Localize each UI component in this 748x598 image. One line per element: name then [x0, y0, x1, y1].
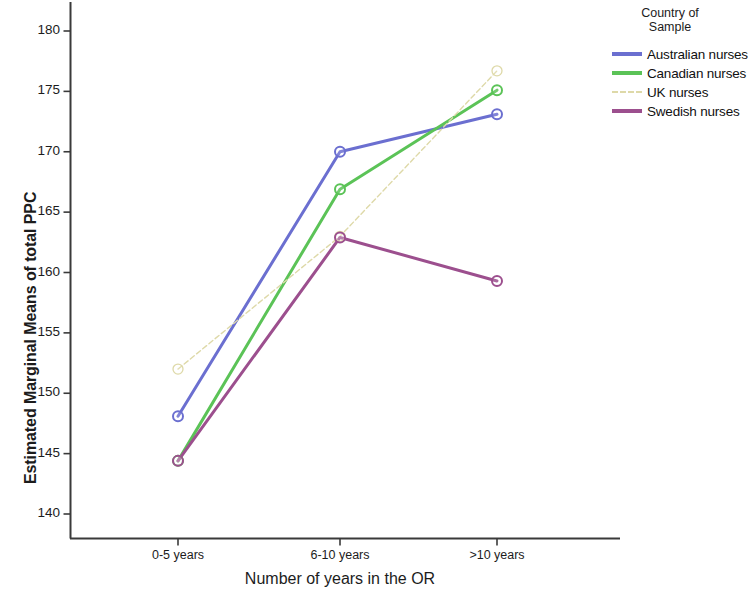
legend-item[interactable]: UK nurses — [606, 83, 737, 101]
series-line — [178, 90, 497, 461]
legend-color-swatch — [612, 109, 642, 113]
series-line — [178, 71, 497, 369]
x-axis-tick-label: >10 years — [437, 548, 557, 562]
x-axis-tick-label: 6-10 years — [280, 548, 400, 562]
y-axis-title: Estimated Marginal Means of total PPC — [22, 192, 40, 484]
x-axis-title: Number of years in the OR — [120, 570, 560, 588]
legend-item-label: Australian nurses — [647, 47, 748, 62]
legend-item[interactable]: Canadian nurses — [606, 64, 737, 82]
legend-title-line-1: Country of — [612, 6, 728, 20]
series-line — [178, 237, 497, 460]
legend-title: Country of Sample — [612, 6, 728, 34]
data-point-marker — [492, 66, 502, 76]
legend-items: Australian nursesCanadian nursesUK nurse… — [606, 45, 737, 120]
x-axis-ticks — [178, 539, 497, 546]
legend-item-label: Swedish nurses — [647, 104, 740, 119]
series-lines — [178, 71, 497, 461]
data-point-marker — [173, 456, 183, 466]
y-axis-ticks — [64, 31, 71, 514]
legend-item[interactable]: Australian nurses — [606, 45, 737, 63]
x-axis-tick-label: 0-5 years — [118, 548, 238, 562]
data-point-marker — [492, 276, 502, 286]
data-point-marker — [335, 184, 345, 194]
y-axis-tick-label: 140 — [18, 505, 60, 520]
data-point-marker — [492, 109, 502, 119]
axis-lines — [70, 2, 620, 539]
data-point-marker — [492, 85, 502, 95]
legend: Country of Sample Australian nursesCanad… — [606, 6, 737, 121]
y-axis-tick-label: 170 — [18, 143, 60, 158]
y-axis-tick-label: 175 — [18, 82, 60, 97]
legend-item[interactable]: Swedish nurses — [606, 102, 737, 120]
data-point-marker — [335, 232, 345, 242]
legend-item-label: UK nurses — [647, 85, 708, 100]
legend-item-label: Canadian nurses — [647, 66, 746, 81]
legend-title-line-2: Sample — [612, 20, 728, 34]
data-point-marker — [173, 411, 183, 421]
data-point-marker — [173, 364, 183, 374]
legend-color-swatch — [612, 71, 642, 75]
y-axis-tick-label: 180 — [18, 22, 60, 37]
legend-color-swatch — [612, 91, 642, 93]
data-point-marker — [335, 147, 345, 157]
legend-color-swatch — [612, 52, 642, 56]
series-line — [178, 114, 497, 416]
